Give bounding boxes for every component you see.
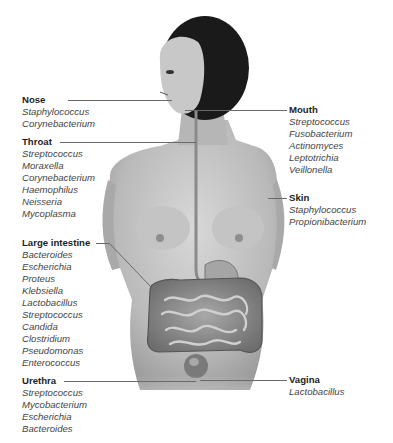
label-urethra: Urethra Streptococcus Mycobacterium Esch… <box>22 375 87 435</box>
organism: Streptococcus <box>22 148 95 160</box>
organism: Veillonella <box>289 164 352 176</box>
organism: Mycoplasma <box>22 208 95 220</box>
organism: Propionibacterium <box>289 216 366 228</box>
region-title: Urethra <box>22 375 87 387</box>
head <box>160 16 249 120</box>
organism: Streptococcus <box>22 387 87 399</box>
organism: Staphylococcus <box>289 204 366 216</box>
organism: Escherichia <box>22 261 90 273</box>
leader-line-skin <box>268 198 287 199</box>
label-nose: Nose Staphylococcus Corynebacterium <box>22 94 95 130</box>
leader-line-large-intestine-diag <box>108 242 158 290</box>
organism: Corynebacterium <box>22 172 95 184</box>
label-skin: Skin Staphylococcus Propionibacterium <box>289 192 366 228</box>
organism: Streptococcus <box>289 116 352 128</box>
region-title: Throat <box>22 136 95 148</box>
organism: Enterococcus <box>22 357 90 369</box>
organism: Moraxella <box>22 160 95 172</box>
region-title: Large intestine <box>22 237 90 249</box>
organism: Lactobacillus <box>22 297 90 309</box>
organism: Klebsiella <box>22 285 90 297</box>
organism: Neisseria <box>22 196 95 208</box>
organism: Candida <box>22 321 90 333</box>
organism: Corynebacterium <box>22 118 95 130</box>
organism: Leptotrichia <box>289 152 352 164</box>
region-title: Vagina <box>289 374 344 386</box>
organism: Pseudomonas <box>22 345 90 357</box>
organism: Bacteroides <box>22 423 87 435</box>
organism: Mycobacterium <box>22 399 87 411</box>
organism: Staphylococcus <box>22 106 95 118</box>
label-mouth: Mouth Streptococcus Fusobacterium Actino… <box>289 104 352 176</box>
region-title: Mouth <box>289 104 352 116</box>
organism: Fusobacterium <box>289 128 352 140</box>
organism: Proteus <box>22 273 90 285</box>
organism: Lactobacillus <box>289 386 344 398</box>
label-vagina: Vagina Lactobacillus <box>289 374 344 398</box>
leader-line-mouth <box>185 110 287 111</box>
label-large-intestine: Large intestine Bacteroides Escherichia … <box>22 237 90 369</box>
leader-line-vagina <box>200 380 287 381</box>
region-title: Skin <box>289 192 366 204</box>
organism: Streptococcus <box>22 309 90 321</box>
organism: Escherichia <box>22 411 87 423</box>
label-throat: Throat Streptococcus Moraxella Corynebac… <box>22 136 95 220</box>
organism: Bacteroides <box>22 249 90 261</box>
organism: Haemophilus <box>22 184 95 196</box>
region-title: Nose <box>22 94 95 106</box>
organism: Actinomyces <box>289 140 352 152</box>
organism: Clostridium <box>22 333 90 345</box>
